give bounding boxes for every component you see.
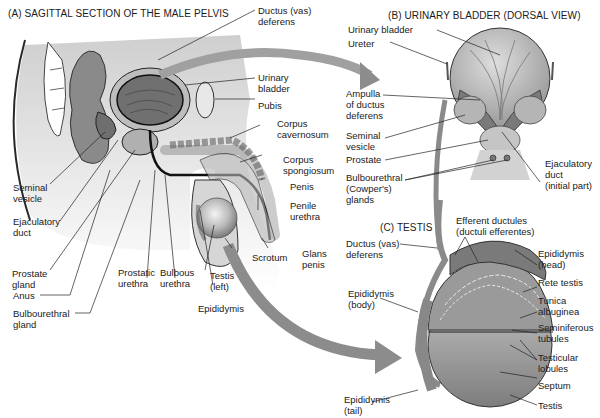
label-c-seminiferous-tubules: Seminiferous tubules — [538, 322, 593, 344]
label-c-epididymis-tail: Epididymis (tail) — [344, 394, 390, 416]
label-epididymis: Epididymis — [198, 303, 244, 314]
panel-a-title: (A) SAGITTAL SECTION OF THE MALE PELVIS — [8, 8, 229, 20]
label-c-septum: Septum — [538, 380, 571, 391]
label-b-bulbourethral-glands: Bulbourethral (Cowper's) glands — [346, 172, 403, 205]
label-prostate-gland: Prostate gland — [12, 268, 47, 290]
label-b-urinary-bladder: Urinary bladder — [348, 24, 413, 35]
panel-c-title: (C) TESTIS — [380, 222, 432, 234]
label-testis-left: Testis (left) — [210, 270, 234, 292]
label-ductus-deferens: Ductus (vas) deferens — [258, 5, 311, 27]
label-urinary-bladder: Urinary bladder — [258, 72, 290, 94]
label-c-efferent-ductules: Efferent ductules (ductuli efferentes) — [456, 215, 535, 237]
label-glans-penis: Glans penis — [302, 248, 327, 270]
label-ejaculatory-duct: Ejaculatory duct — [13, 216, 60, 238]
label-anus: Anus — [13, 290, 35, 301]
label-scrotum: Scrotum — [252, 252, 287, 263]
label-corpus-cavernosum: Corpus cavernosum — [277, 118, 329, 140]
label-penile-urethra: Penile urethra — [290, 200, 320, 222]
label-b-prostate: Prostate — [346, 154, 381, 165]
label-c-testis: Testis — [538, 400, 562, 411]
label-c-epididymis-body: Epididymis (body) — [348, 288, 394, 310]
label-b-ureter: Ureter — [348, 38, 374, 49]
panel-b-title: (B) URINARY BLADDER (DORSAL VIEW) — [388, 10, 581, 22]
label-bulbous-urethra: Bulbous urethra — [160, 267, 194, 289]
label-b-ejaculatory-duct: Ejaculatory duct (initial part) — [545, 158, 592, 191]
label-corpus-spongiosum: Corpus spongiosum — [283, 154, 334, 176]
label-penis: Penis — [290, 181, 314, 192]
label-c-epididymis-head: Epididymis (head) — [538, 248, 584, 270]
label-c-testicular-lobules: Testicular lobules — [538, 352, 578, 374]
label-prostatic-urethra: Prostatic urethra — [118, 267, 155, 289]
label-b-seminal-vesicle: Seminal vesicle — [346, 130, 380, 152]
label-seminal-vesicle: Seminal vesicle — [13, 182, 47, 204]
label-c-rete-testis: Rete testis — [538, 277, 583, 288]
label-c-ductus-deferens: Ductus (vas) deferens — [346, 238, 399, 260]
label-pubis: Pubis — [258, 100, 282, 111]
label-bulbourethral-gland: Bulbourethral gland — [13, 308, 70, 330]
label-c-tunica-albuginea: Tunica albuginea — [538, 295, 579, 317]
label-b-ampulla: Ampulla of ductus deferens — [346, 88, 385, 121]
